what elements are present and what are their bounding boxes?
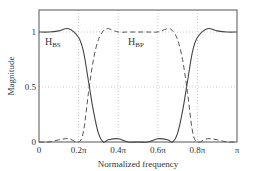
y-axis-label: Magnitude bbox=[6, 57, 16, 96]
y-tick-label: 1 bbox=[32, 27, 37, 37]
series-labels: HBSHBP bbox=[45, 36, 144, 49]
plot-frame bbox=[39, 10, 237, 142]
y-axis-ticks: 00.51 bbox=[25, 27, 37, 147]
x-tick-label: 0.6π bbox=[150, 145, 166, 155]
x-axis-label: Normalized frequency bbox=[98, 159, 179, 169]
series-label-bp: HBP bbox=[128, 36, 144, 49]
y-tick-label: 0 bbox=[32, 137, 37, 147]
series-label-bs: HBS bbox=[45, 36, 61, 49]
x-tick-label: 0.8π bbox=[190, 145, 206, 155]
chart: 00.2π0.4π0.6π0.8ππ 00.51 Normalized freq… bbox=[0, 0, 253, 171]
x-tick-label: 0 bbox=[37, 145, 42, 155]
grid-lines bbox=[39, 10, 237, 142]
y-tick-label: 0.5 bbox=[25, 82, 37, 92]
x-tick-label: π bbox=[235, 145, 240, 155]
x-axis-ticks: 00.2π0.4π0.6π0.8ππ bbox=[37, 145, 240, 155]
x-tick-label: 0.4π bbox=[110, 145, 126, 155]
x-tick-label: 0.2π bbox=[71, 145, 87, 155]
